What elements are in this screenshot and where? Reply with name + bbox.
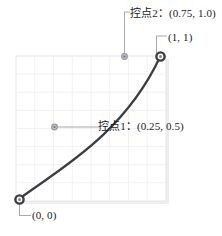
label-start-point: (0, 0) <box>32 209 56 221</box>
marker-control-point-1[interactable] <box>52 124 58 130</box>
label-control-point-2: 控点2：(0.75, 1.0) <box>130 7 216 19</box>
bezier-curve-figure: 控点2：(0.75, 1.0) (1, 1) 控点1：(0.25, 0.5) (… <box>0 0 222 236</box>
marker-end-point[interactable] <box>156 52 164 60</box>
marker-control-point-2[interactable] <box>122 54 128 60</box>
marker-start-point[interactable] <box>15 195 23 203</box>
label-end-point: (1, 1) <box>168 31 192 43</box>
label-control-point-1: 控点1：(0.25, 0.5) <box>98 120 184 132</box>
leader-line-end-point <box>156 36 167 53</box>
